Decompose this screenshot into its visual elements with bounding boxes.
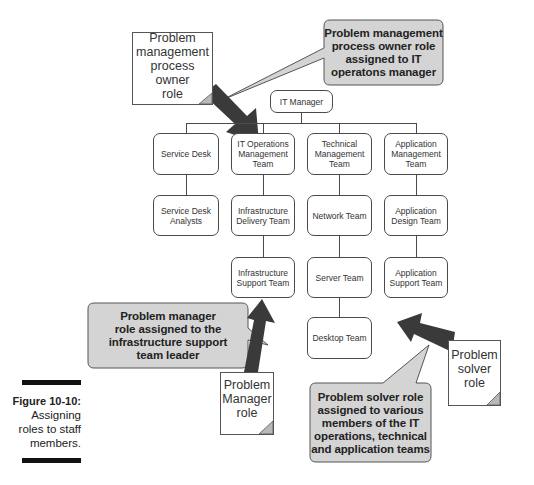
org-box-it-operations: IT Operations Management Team bbox=[231, 133, 295, 175]
connector-col4-r2 bbox=[416, 175, 417, 195]
org-box-infrastructure-support: Infrastructure Support Team bbox=[231, 257, 295, 298]
connector-col3 bbox=[339, 123, 340, 133]
org-box-label: IT Operations Management Team bbox=[237, 139, 288, 169]
org-box-infrastructure-delivery: Infrastructure Delivery Team bbox=[231, 195, 295, 236]
connector-col1 bbox=[186, 123, 187, 133]
note-label: Problem management process owner role bbox=[133, 31, 212, 101]
org-box-service-desk: Service Desk bbox=[153, 133, 219, 175]
callout-owner-text: Problem management process owner role as… bbox=[324, 21, 443, 85]
org-box-server-team: Server Team bbox=[307, 257, 372, 298]
note-problem-manager-role: Problem Manager role bbox=[220, 372, 274, 435]
note-process-owner-role: Problem management process owner role bbox=[132, 32, 213, 105]
org-box-application-management: Application Management Team bbox=[384, 133, 448, 175]
caption-top-bar bbox=[22, 380, 81, 385]
note-label: Problem Manager role bbox=[222, 378, 271, 420]
org-box-application-support: Application Support Team bbox=[384, 257, 448, 298]
connector-col3-r4 bbox=[339, 298, 340, 317]
org-box-label: Server Team bbox=[315, 273, 363, 283]
connector-col4-r3 bbox=[416, 236, 417, 257]
connector-root bbox=[301, 113, 302, 123]
connector-col4 bbox=[416, 123, 417, 133]
connector-col2 bbox=[263, 123, 264, 133]
org-box-it-manager: IT Manager bbox=[270, 90, 333, 113]
org-box-label: Desktop Team bbox=[312, 333, 366, 343]
note-problem-solver-role: Problem solver role bbox=[448, 340, 501, 406]
org-box-label: Application Management Team bbox=[391, 139, 441, 169]
org-box-label: Network Team bbox=[312, 211, 366, 221]
connector-col1-r2 bbox=[186, 175, 187, 195]
callout-manager-text: Problem manager role assigned to the inf… bbox=[88, 304, 248, 368]
org-box-network-team: Network Team bbox=[307, 195, 372, 236]
callout-solver-text: Problem solver role assigned to various … bbox=[310, 384, 431, 462]
caption-line: members. bbox=[0, 436, 81, 450]
org-box-technical-management: Technical Management Team bbox=[307, 133, 372, 175]
org-box-application-design: Application Design Team bbox=[384, 195, 448, 236]
org-box-label: IT Manager bbox=[280, 97, 323, 107]
connector-col2-r2 bbox=[263, 175, 264, 195]
org-box-label: Technical Management Team bbox=[315, 139, 365, 169]
org-box-label: Service Desk Analysts bbox=[161, 206, 211, 226]
note-label: Problem solver role bbox=[451, 348, 498, 390]
connector-col2-r3 bbox=[263, 236, 264, 257]
org-box-label: Service Desk bbox=[161, 149, 211, 159]
org-box-service-desk-analysts: Service Desk Analysts bbox=[153, 195, 219, 236]
caption-line: roles to staff bbox=[0, 422, 81, 436]
connector-col3-r3 bbox=[339, 236, 340, 257]
org-box-label: Application Design Team bbox=[391, 206, 440, 226]
figure-number: Figure 10-10: bbox=[0, 394, 81, 408]
connector-col3-r2 bbox=[339, 175, 340, 195]
caption-bottom-bar bbox=[22, 458, 81, 463]
arrow-solver-icon bbox=[397, 313, 455, 352]
org-box-label: Infrastructure Support Team bbox=[237, 268, 290, 288]
figure-caption: Figure 10-10: Assigning roles to staff m… bbox=[0, 394, 81, 450]
caption-line: Assigning bbox=[0, 408, 81, 422]
org-box-label: Application Support Team bbox=[390, 268, 443, 288]
org-box-label: Infrastructure Delivery Team bbox=[236, 206, 290, 226]
org-box-desktop-team: Desktop Team bbox=[307, 317, 372, 359]
connector-horizontal bbox=[186, 123, 416, 124]
